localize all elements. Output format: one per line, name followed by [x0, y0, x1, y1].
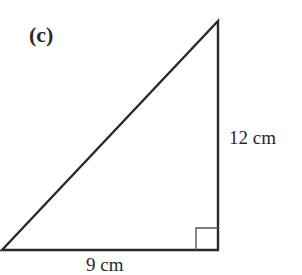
vertical-side-label: 12 cm [229, 128, 276, 147]
triangle-figure: (c) 12 cm 9 cm [0, 0, 302, 275]
right-angle-marker [196, 228, 218, 250]
part-label: (c) [29, 24, 53, 46]
right-triangle [2, 21, 218, 250]
base-side-label: 9 cm [86, 255, 123, 274]
